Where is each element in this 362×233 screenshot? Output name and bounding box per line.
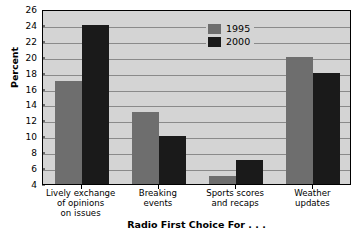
y-axis-tick-mark (42, 169, 45, 170)
x-axis-category-label-line: and recaps (206, 198, 264, 208)
x-axis-tick-mark (158, 185, 159, 189)
y-axis-tick-label: 8 (17, 149, 37, 158)
bar-2000-cat2 (236, 160, 263, 184)
x-axis-tick-labels: Lively exchangeof opinionson issuesBreak… (42, 188, 351, 220)
y-axis-tick-label: 18 (17, 69, 37, 78)
y-axis-tick-mark (42, 153, 45, 154)
legend-label-2000: 2000 (226, 37, 250, 47)
x-axis-category-label: Sports scoresand recaps (206, 188, 264, 208)
chart-legend: 19952000 (206, 21, 254, 50)
y-axis-tick-mark (42, 73, 45, 74)
y-axis-tick-label: 16 (17, 85, 37, 94)
y-axis-tick-label: 24 (17, 21, 37, 30)
plot-area (42, 10, 351, 185)
y-axis-tick-mark (42, 57, 45, 58)
y-axis-tick-label: 14 (17, 101, 37, 110)
bar-2000-cat1 (159, 136, 186, 184)
x-axis-category-label: Lively exchangeof opinionson issues (46, 188, 115, 219)
x-axis-category-label-line: Sports scores (206, 188, 264, 198)
y-axis-tick-mark (42, 121, 45, 122)
x-axis-category-label: Breakingevents (139, 188, 177, 208)
bar-2000-cat3 (313, 73, 340, 184)
x-axis-tick-mark (312, 185, 313, 189)
x-axis-category-label-line: updates (294, 198, 330, 208)
x-axis-category-label-line: Weather (294, 188, 330, 198)
legend-item-1995: 1995 (208, 22, 250, 35)
y-axis-tick-mark (42, 41, 45, 42)
x-axis-tick-mark (81, 185, 82, 189)
y-axis-tick-label: 4 (17, 181, 37, 190)
y-axis-tick-label: 10 (17, 133, 37, 142)
x-axis-tick-mark (235, 185, 236, 189)
bar-1995-cat0 (55, 81, 82, 184)
x-axis-category-label-line: of opinions (46, 198, 115, 208)
legend-label-1995: 1995 (226, 24, 250, 34)
x-axis-category-label-line: Breaking (139, 188, 177, 198)
bar-1995-cat3 (286, 57, 313, 184)
x-axis-category-label: Weatherupdates (294, 188, 330, 208)
legend-item-2000: 2000 (208, 35, 250, 48)
x-axis-title: Radio First Choice For . . . (42, 219, 351, 230)
bar-1995-cat2 (209, 176, 236, 184)
bar-chart-figure: Percent 468101214161820222426 19952000 L… (0, 0, 362, 233)
legend-swatch-2000 (208, 37, 221, 47)
y-axis-tick-mark (42, 137, 45, 138)
y-axis-tick-label: 22 (17, 37, 37, 46)
x-axis-category-label-line: on issues (46, 208, 115, 218)
bar-1995-cat1 (132, 112, 159, 184)
y-axis-tick-mark (42, 185, 45, 186)
y-axis-tick-mark (42, 89, 45, 90)
y-axis-tick-label: 6 (17, 165, 37, 174)
y-axis-tick-label: 26 (17, 6, 37, 15)
y-axis-tick-label: 20 (17, 53, 37, 62)
y-axis-tick-mark (42, 105, 45, 106)
y-axis-tick-labels: 468101214161820222426 (17, 10, 37, 185)
bar-2000-cat0 (82, 25, 109, 184)
x-axis-category-label-line: Lively exchange (46, 188, 115, 198)
x-axis-category-label-line: events (139, 198, 177, 208)
y-axis-tick-mark (42, 25, 45, 26)
legend-swatch-1995 (208, 24, 221, 34)
y-axis-tick-label: 12 (17, 117, 37, 126)
bar-series-container (43, 11, 350, 184)
